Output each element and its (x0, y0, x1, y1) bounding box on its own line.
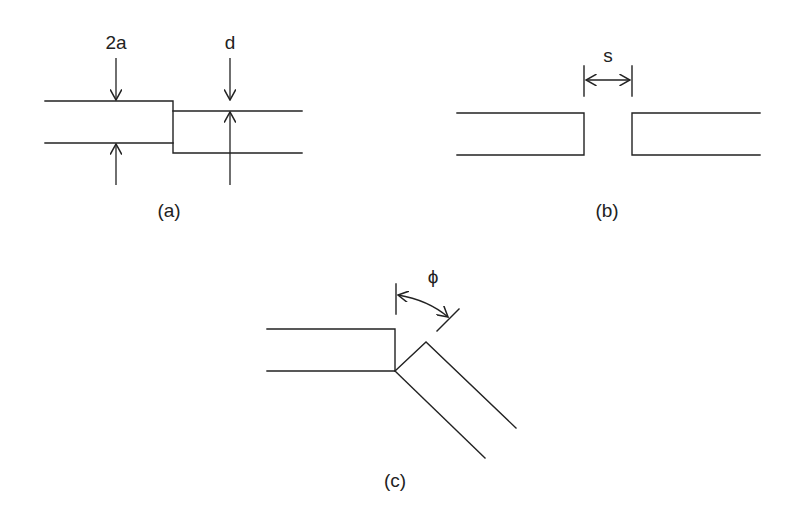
gap-label: s (603, 45, 613, 66)
caption-a: (a) (157, 200, 180, 221)
angle-label: ϕ (428, 266, 439, 287)
right-waveguide (632, 113, 760, 155)
waveguide-discontinuity-diagram: 2a d (a) s (b) ϕ (c) (0, 0, 795, 521)
angle-arc-arrow (398, 295, 448, 317)
caption-c: (c) (384, 470, 406, 491)
left-waveguide (45, 101, 302, 153)
caption-b: (b) (595, 200, 618, 221)
panel-c: ϕ (c) (267, 266, 516, 491)
left-waveguide (457, 113, 584, 155)
width-label: 2a (105, 32, 127, 53)
straight-waveguide (267, 329, 395, 371)
offset-label: d (225, 32, 236, 53)
panel-b: s (b) (457, 45, 760, 221)
angle-tick-angled (437, 309, 459, 331)
bent-waveguide-lower (395, 371, 485, 458)
panel-a: 2a d (a) (45, 32, 302, 221)
bent-waveguide-upper (395, 342, 516, 428)
